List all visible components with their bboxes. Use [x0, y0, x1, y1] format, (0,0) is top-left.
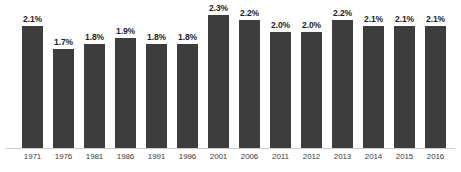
bar[interactable] [394, 26, 415, 148]
bar-group[interactable]: 2.0% [270, 0, 291, 148]
bars-layer: 2.1%1.7%1.8%1.9%1.8%1.8%2.3%2.2%2.0%2.0%… [22, 0, 446, 148]
bar-value-label: 1.7% [54, 37, 73, 47]
bar-value-label: 2.0% [271, 20, 290, 30]
bar-value-label: 2.2% [333, 8, 352, 18]
x-axis-tick-label: 1991 [141, 152, 172, 161]
bar-value-label: 2.1% [23, 14, 42, 24]
bar-value-label: 1.8% [178, 32, 197, 42]
bar[interactable] [84, 44, 105, 148]
bar-value-label: 2.1% [426, 14, 445, 24]
x-axis-tick-label: 1981 [79, 152, 110, 161]
bar-group[interactable]: 2.2% [239, 0, 260, 148]
bar[interactable] [363, 26, 384, 148]
bar[interactable] [53, 49, 74, 148]
bar-group[interactable]: 2.2% [332, 0, 353, 148]
bar-group[interactable]: 2.1% [22, 0, 43, 148]
bar-group[interactable]: 1.7% [53, 0, 74, 148]
x-axis-tick-label: 1976 [48, 152, 79, 161]
plot-area: 2.1%1.7%1.8%1.9%1.8%1.8%2.3%2.2%2.0%2.0%… [0, 0, 461, 172]
bar-value-label: 2.2% [240, 8, 259, 18]
x-axis-tick-label: 2016 [420, 152, 451, 161]
bar-value-label: 1.9% [116, 26, 135, 36]
bar[interactable] [208, 15, 229, 148]
bar-group[interactable]: 1.8% [84, 0, 105, 148]
x-axis-tick-label: 2011 [265, 152, 296, 161]
x-axis-tick-label: 2006 [234, 152, 265, 161]
bar[interactable] [115, 38, 136, 148]
x-axis-tick-label: 2015 [389, 152, 420, 161]
bar-value-label: 1.8% [85, 32, 104, 42]
bar-value-label: 2.1% [395, 14, 414, 24]
bar-group[interactable]: 2.1% [425, 0, 446, 148]
bar-value-label: 2.0% [302, 20, 321, 30]
bar-value-label: 2.1% [364, 14, 383, 24]
x-axis-tick-labels: 1971197619811986199119962001200620112012… [22, 152, 446, 168]
bar[interactable] [301, 32, 322, 148]
bar-group[interactable]: 1.8% [177, 0, 198, 148]
bar[interactable] [146, 44, 167, 148]
bar-group[interactable]: 2.3% [208, 0, 229, 148]
x-axis-tick-label: 1986 [110, 152, 141, 161]
x-axis-tick-label: 1996 [172, 152, 203, 161]
bar[interactable] [22, 26, 43, 148]
bar-group[interactable]: 1.9% [115, 0, 136, 148]
bar-group[interactable]: 2.1% [363, 0, 384, 148]
bar[interactable] [332, 20, 353, 148]
bar[interactable] [239, 20, 260, 148]
bar[interactable] [177, 44, 198, 148]
x-axis-tick-label: 1971 [17, 152, 48, 161]
bar-value-label: 1.8% [147, 32, 166, 42]
x-axis-tick-label: 2014 [358, 152, 389, 161]
bar-group[interactable]: 1.8% [146, 0, 167, 148]
bar[interactable] [425, 26, 446, 148]
x-axis-tick-label: 2001 [203, 152, 234, 161]
bar-chart-figure: 2.1%1.7%1.8%1.9%1.8%1.8%2.3%2.2%2.0%2.0%… [0, 0, 461, 172]
bar[interactable] [270, 32, 291, 148]
x-axis-line [6, 148, 455, 149]
bar-value-label: 2.3% [209, 3, 228, 13]
bar-group[interactable]: 2.0% [301, 0, 322, 148]
bar-group[interactable]: 2.1% [394, 0, 415, 148]
x-axis-tick-label: 2013 [327, 152, 358, 161]
x-axis-tick-label: 2012 [296, 152, 327, 161]
